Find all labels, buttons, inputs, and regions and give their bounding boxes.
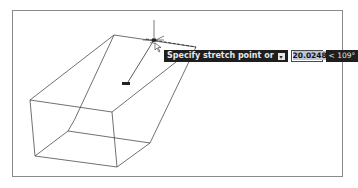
angle-readout[interactable]: < 109° [326,50,358,62]
prompt-box: Specify stretch point or ▾ [164,50,288,62]
distance-value: 20.0248 [293,51,327,60]
stretch-vector [128,40,154,82]
edge-bottom-left [35,131,68,156]
pointer-arrow-icon [155,43,161,52]
front-face [30,100,117,167]
edge-top-left [30,35,114,100]
dynamic-input-tooltip: Specify stretch point or ▾ 20.0248 < 109… [164,50,358,62]
distance-input[interactable]: 20.0248 [291,50,323,62]
prompt-text: Specify stretch point or [167,50,274,62]
edge-back-bottom [68,131,150,143]
edge-back-left [68,35,114,131]
down-arrow-options-icon[interactable]: ▾ [278,53,285,60]
crosshair-cursor-icon [143,20,164,44]
grip-icon[interactable] [122,82,130,85]
edge-bottom-right [117,143,150,167]
edge-top-front [112,62,176,112]
